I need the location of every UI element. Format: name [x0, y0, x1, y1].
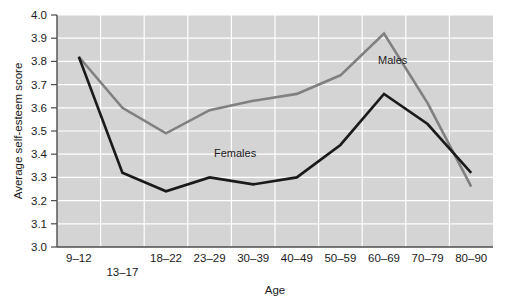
- x-tick-label: 40–49: [281, 252, 313, 264]
- series-label-males: Males: [378, 54, 408, 66]
- x-tick-label: 23–29: [194, 252, 226, 264]
- x-tick-label: 60–69: [368, 252, 400, 264]
- y-tick-label: 3.2: [31, 195, 47, 207]
- y-tick-label: 3.4: [31, 148, 48, 160]
- x-tick-label: 30–39: [237, 252, 269, 264]
- chart-figure: 3.03.13.23.33.43.53.63.73.83.94.0 9–1213…: [0, 0, 517, 304]
- y-tick-label: 4.0: [31, 9, 47, 21]
- y-tick-label: 3.6: [31, 102, 47, 114]
- y-axis-title: Average self-esteem score: [12, 63, 24, 200]
- y-tick-label: 3.9: [31, 32, 47, 44]
- y-axis-ticks: 3.03.13.23.33.43.53.63.73.83.94.0: [31, 9, 57, 253]
- x-tick-label: 13–17: [106, 266, 138, 278]
- self-esteem-line-chart: 3.03.13.23.33.43.53.63.73.83.94.0 9–1213…: [0, 0, 517, 304]
- x-axis-ticks: 9–1213–1718–2223–2930–3940–4950–5960–697…: [66, 252, 487, 278]
- x-tick-label: 9–12: [66, 252, 92, 264]
- x-tick-label: 70–79: [412, 252, 444, 264]
- x-tick-label: 18–22: [150, 252, 182, 264]
- y-tick-label: 3.1: [31, 218, 47, 230]
- y-tick-label: 3.3: [31, 171, 47, 183]
- y-tick-label: 3.8: [31, 55, 47, 67]
- series-label-females: Females: [214, 147, 257, 159]
- y-tick-label: 3.7: [31, 79, 47, 91]
- x-tick-label: 80–90: [455, 252, 487, 264]
- x-axis-title: Age: [265, 284, 285, 296]
- y-tick-label: 3.0: [31, 241, 47, 253]
- x-tick-label: 50–59: [324, 252, 356, 264]
- y-tick-label: 3.5: [31, 125, 47, 137]
